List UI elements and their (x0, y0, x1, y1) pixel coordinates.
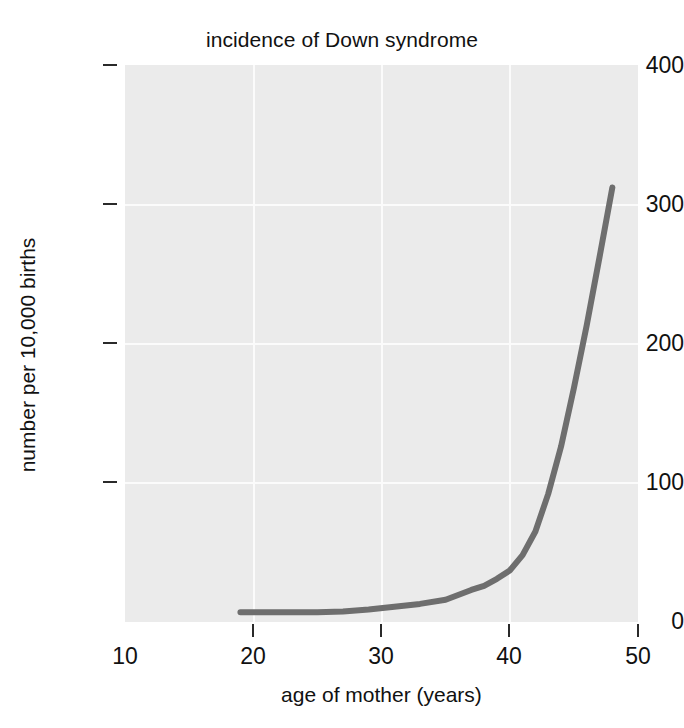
x-tick-mark-20 (252, 624, 254, 637)
x-tick-label-20: 20 (223, 645, 283, 668)
x-tick-label-30: 30 (351, 645, 411, 668)
y-axis-label: number per 10,000 births (16, 205, 40, 505)
x-tick-label-50: 50 (608, 645, 668, 668)
y-tick-mark-400 (103, 64, 117, 66)
x-tick-mark-40 (508, 624, 510, 637)
plot-area (125, 65, 638, 622)
y-tick-mark-100 (103, 481, 117, 483)
chart-title: incidence of Down syndrome (0, 28, 684, 52)
x-axis-label: age of mother (years) (125, 683, 638, 707)
data-line-chart (125, 65, 638, 622)
y-tick-mark-300 (103, 203, 117, 205)
x-tick-mark-50 (637, 624, 639, 637)
x-tick-label-40: 40 (479, 645, 539, 668)
incidence-curve (240, 188, 612, 613)
x-tick-label-10: 10 (95, 645, 155, 668)
chart-figure: incidence of Down syndrome number per 10… (0, 0, 684, 728)
y-tick-mark-200 (103, 342, 117, 344)
x-tick-mark-30 (380, 624, 382, 637)
